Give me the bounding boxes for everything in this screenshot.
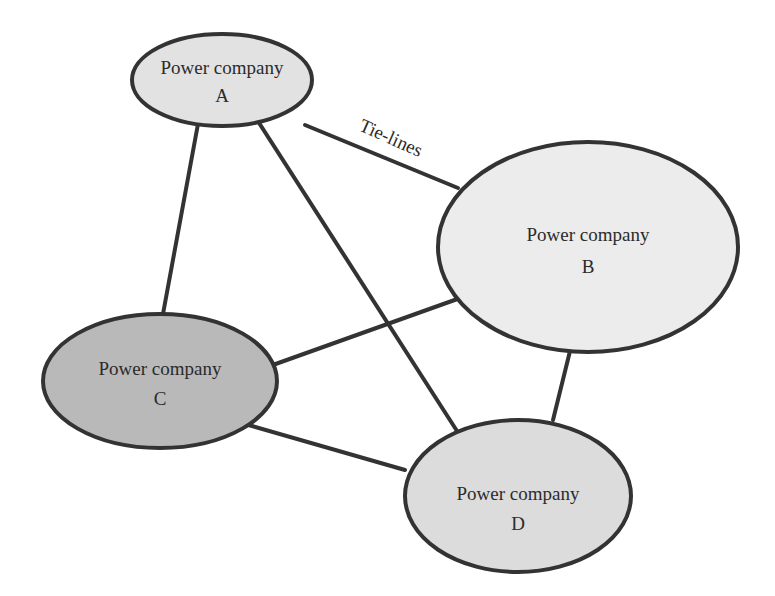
tie-line-b-c <box>256 297 463 371</box>
node-a-label-line2: A <box>215 85 229 106</box>
node-power-company-b: Power company B <box>438 142 738 352</box>
node-c-label-line2: C <box>154 388 167 409</box>
node-d-label-line2: D <box>511 513 525 534</box>
node-b-ellipse <box>438 142 738 352</box>
node-power-company-a: Power company A <box>132 34 312 126</box>
node-a-label-line1: Power company <box>161 57 284 78</box>
node-power-company-c: Power company C <box>43 314 277 448</box>
tie-line-a-d <box>254 115 457 431</box>
power-network-diagram: Tie-lines Power company A Power company … <box>0 0 775 596</box>
node-c-label-line1: Power company <box>99 358 222 379</box>
node-a-ellipse <box>132 34 312 126</box>
node-c-ellipse <box>43 314 277 448</box>
node-b-label-line1: Power company <box>527 224 650 245</box>
tie-line-b-d <box>553 343 572 420</box>
node-b-label-line2: B <box>582 256 595 277</box>
tie-lines-label: Tie-lines <box>356 114 426 160</box>
node-power-company-d: Power company D <box>405 420 631 572</box>
tie-line-a-c <box>163 113 200 314</box>
node-d-label-line1: Power company <box>457 483 580 504</box>
tie-line-c-d <box>238 422 405 470</box>
